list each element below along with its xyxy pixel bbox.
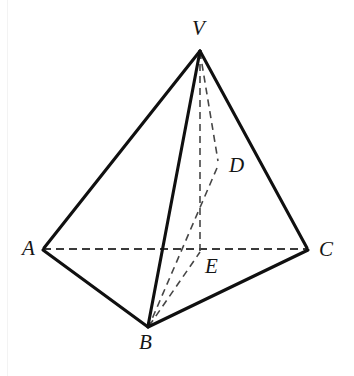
edge-VA bbox=[44, 51, 200, 248]
vertex-label-C: C bbox=[319, 239, 333, 260]
vertex-label-B: B bbox=[139, 332, 152, 353]
geometry-figure: V A B C D E bbox=[0, 0, 354, 376]
edge-DB bbox=[149, 168, 217, 326]
edge-BC bbox=[148, 250, 308, 327]
vertex-label-V: V bbox=[192, 18, 205, 39]
geometry-canvas bbox=[0, 0, 354, 376]
edge-VB bbox=[148, 51, 200, 326]
edge-AB bbox=[43, 250, 148, 327]
vertex-label-A: A bbox=[22, 238, 35, 259]
vertex-label-D: D bbox=[229, 155, 244, 176]
vertex-label-E: E bbox=[205, 256, 218, 277]
